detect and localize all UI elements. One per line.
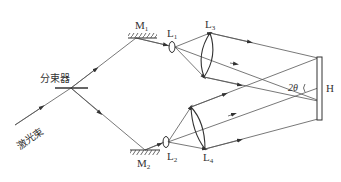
mirror-m2: [130, 150, 160, 155]
label-laser-beam: 激光束: [14, 125, 45, 152]
label-beam-splitter: 分束器: [40, 73, 70, 84]
label-h: H: [326, 82, 334, 94]
lens-l4: [191, 107, 205, 149]
lens-l1: [169, 42, 175, 53]
label-l4: L4: [203, 151, 214, 165]
label-m2: M2: [137, 157, 151, 171]
label-m1: M1: [135, 19, 149, 33]
label-angle: 2θ: [288, 82, 298, 93]
mirror-m1: [128, 33, 157, 38]
label-l3: L3: [205, 18, 216, 32]
label-l1: L1: [167, 27, 178, 41]
label-l2: L2: [167, 150, 178, 164]
hologram-plate-h: [317, 57, 322, 120]
optical-setup-diagram: M1 L1 L3 M2 L2 L4 H 2θ 分束器 激光束: [0, 0, 341, 182]
lens-l3: [201, 33, 213, 77]
